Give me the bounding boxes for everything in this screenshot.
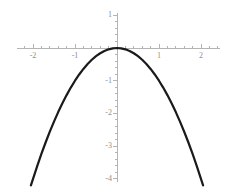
x-tick-label: -2 — [30, 52, 37, 60]
x-tick-label: 2 — [199, 52, 203, 60]
plot-figure: -2-1121-1-2-3-4 — [0, 0, 233, 193]
y-tick-label: -2 — [105, 109, 112, 117]
x-tick-label: -1 — [72, 52, 79, 60]
y-tick-label: 1 — [108, 11, 112, 19]
y-tick-label: -3 — [105, 142, 112, 150]
x-tick-label: 1 — [157, 52, 161, 60]
y-tick-label: -4 — [105, 175, 112, 183]
y-tick-label: -1 — [105, 77, 112, 85]
plot-canvas — [0, 0, 233, 193]
